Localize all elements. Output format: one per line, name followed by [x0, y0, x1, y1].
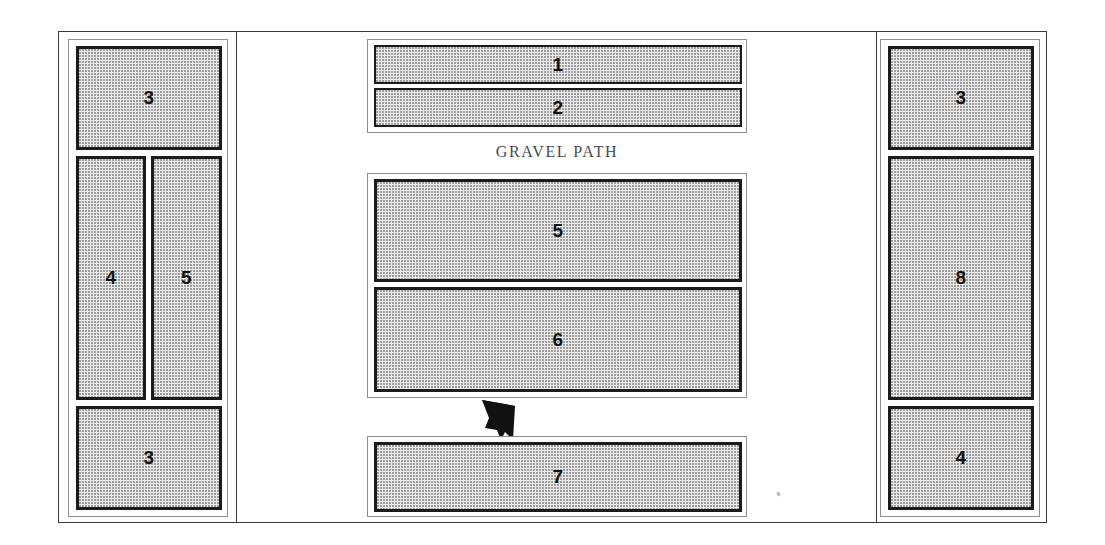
bed-label: 8: [955, 267, 966, 289]
bed-label: 6: [552, 329, 563, 351]
right-bed-top[interactable]: 3: [888, 46, 1034, 150]
center-bed-1[interactable]: 1: [374, 45, 742, 84]
center-upper-group: 1 2: [367, 39, 747, 133]
center-middle-group: 5 6: [367, 173, 747, 398]
plan-outer-frame: 3 4 5 3 1 2 GRAVEL PATH: [58, 31, 1047, 523]
left-bed-middle-right[interactable]: 5: [151, 156, 222, 400]
zone-divider-left: [236, 32, 237, 522]
bed-label: 3: [143, 447, 154, 469]
bed-label: 3: [143, 87, 154, 109]
scan-speck: [776, 492, 780, 497]
gravel-path-label: GRAVEL PATH: [367, 143, 747, 161]
center-bed-2[interactable]: 2: [374, 88, 742, 127]
right-bed-bottom[interactable]: 4: [888, 406, 1034, 510]
center-bed-5[interactable]: 5: [374, 179, 742, 282]
left-bed-middle-left[interactable]: 4: [76, 156, 146, 400]
center-bed-6[interactable]: 6: [374, 287, 742, 392]
left-bed-bottom[interactable]: 3: [76, 406, 222, 510]
center-bottom-group: 7: [367, 436, 747, 517]
bed-label: 5: [552, 220, 563, 242]
bed-label: 5: [181, 267, 192, 289]
zone-divider-right: [876, 32, 877, 522]
bed-label: 3: [955, 87, 966, 109]
bed-label: 2: [552, 97, 563, 119]
bed-label: 7: [552, 466, 563, 488]
right-zone-group: 3 8 4: [880, 39, 1040, 517]
left-zone-group: 3 4 5 3: [68, 39, 228, 517]
left-bed-top[interactable]: 3: [76, 46, 222, 150]
center-bed-7[interactable]: 7: [374, 442, 742, 512]
right-bed-middle[interactable]: 8: [888, 156, 1034, 400]
bed-label: 4: [105, 267, 116, 289]
bed-label: 1: [552, 54, 563, 76]
bed-label: 4: [955, 447, 966, 469]
garden-plan-canvas: 3 4 5 3 1 2 GRAVEL PATH: [0, 0, 1105, 545]
